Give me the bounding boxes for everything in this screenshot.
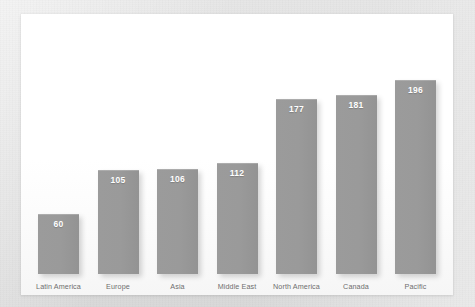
bar[interactable]: 177 xyxy=(276,99,317,274)
bar-value-label: 60 xyxy=(38,220,79,229)
bar-slot: 196 xyxy=(388,22,443,295)
bar-slot: 60 xyxy=(31,22,86,295)
bar-category-label: Europe xyxy=(85,283,152,290)
bar-group[interactable]: 112 Middle East xyxy=(210,22,265,295)
bar-category-label: Latin America xyxy=(25,283,92,290)
bar-category-label: Asia xyxy=(144,283,211,290)
page-backdrop: 60 Latin America 105 Europe xyxy=(0,0,475,307)
bar-slot: 105 xyxy=(91,22,146,295)
bar-category-label: Pacific xyxy=(382,283,449,290)
bar-slot: 106 xyxy=(150,22,205,295)
bar[interactable]: 196 xyxy=(395,80,436,274)
bar-slot: 181 xyxy=(329,22,384,295)
chart-plot-area: 60 Latin America 105 Europe xyxy=(21,14,453,295)
bar[interactable]: 60 xyxy=(38,214,79,274)
bar[interactable]: 105 xyxy=(98,170,139,274)
bar[interactable]: 112 xyxy=(217,163,258,274)
chart-card: 60 Latin America 105 Europe xyxy=(21,14,453,295)
bar[interactable]: 106 xyxy=(157,169,198,274)
bar-value-label: 196 xyxy=(395,86,436,95)
bar-group[interactable]: 181 Canada xyxy=(329,22,384,295)
bar-group[interactable]: 196 Pacific xyxy=(388,22,443,295)
bar-group[interactable]: 106 Asia xyxy=(150,22,205,295)
bar-category-label: North America xyxy=(263,283,330,290)
bar-value-label: 105 xyxy=(98,176,139,185)
bar-group[interactable]: 177 North America xyxy=(269,22,324,295)
bar-value-label: 177 xyxy=(276,105,317,114)
bar-slot: 177 xyxy=(269,22,324,295)
bar-group[interactable]: 60 Latin America xyxy=(31,22,86,295)
bar-value-label: 106 xyxy=(157,175,198,184)
bar[interactable]: 181 xyxy=(336,95,377,274)
bar-category-label: Canada xyxy=(323,283,390,290)
bar-group[interactable]: 105 Europe xyxy=(91,22,146,295)
bar-slot: 112 xyxy=(210,22,265,295)
bar-series: 60 Latin America 105 Europe xyxy=(31,22,443,295)
bar-value-label: 181 xyxy=(336,101,377,110)
bar-value-label: 112 xyxy=(217,169,258,178)
bar-category-label: Middle East xyxy=(204,283,271,290)
